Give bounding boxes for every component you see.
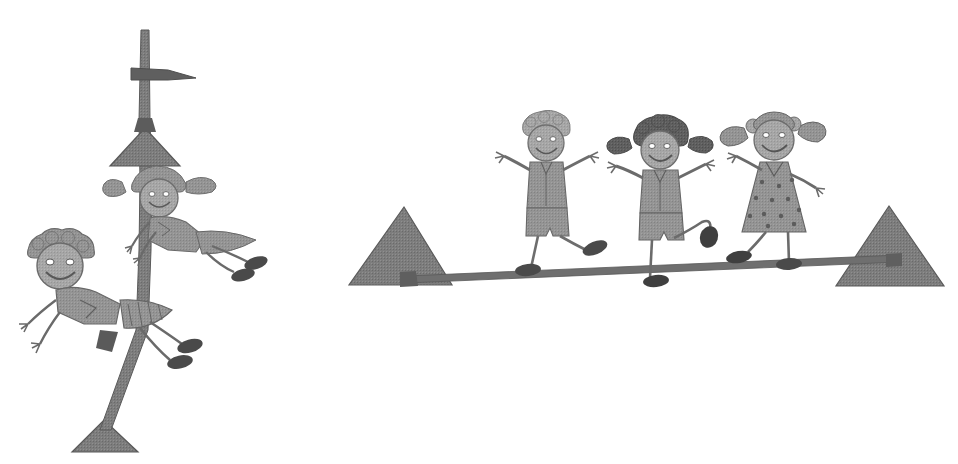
beam-child-left-eye-left xyxy=(536,137,542,142)
beam-child-middle-eye-right xyxy=(664,144,670,149)
climbing-girl-eye-left xyxy=(149,192,155,197)
beam-child-middle-head xyxy=(641,131,679,169)
climbing-boy-hair-curl-2 xyxy=(46,232,59,245)
beam-child-left-hair-curl-1 xyxy=(526,117,536,127)
climbing-girl-head xyxy=(140,179,178,217)
beam-right-end xyxy=(886,253,902,267)
beam-child-middle-shirt xyxy=(640,170,682,213)
beam-child-left-eye-right xyxy=(550,137,556,142)
beam-child-right-eye-right xyxy=(779,133,785,138)
beam-child-right-eye-left xyxy=(763,133,769,138)
beam-child-middle-hair-curl-2 xyxy=(652,115,665,128)
beam-left-end xyxy=(400,271,418,287)
clipart-drawing xyxy=(0,0,958,464)
beam-child-left-shorts xyxy=(526,208,569,236)
climbing-boy-hair-curl-3 xyxy=(62,232,75,245)
climbing-boy-eye-left xyxy=(46,259,54,265)
beam-child-right-leg-standing xyxy=(788,232,789,262)
climbing-girl-eye-right xyxy=(163,192,169,197)
climbing-girl-pigtail-right xyxy=(186,177,216,194)
beam-child-right-head xyxy=(754,120,794,160)
illustration-canvas: Black and white clipart drawing: on the … xyxy=(0,0,958,464)
beam-child-left-hair-curl-2 xyxy=(539,112,550,123)
climbing-boy-eye-right xyxy=(66,259,74,265)
beam-child-middle-hair-curl-1 xyxy=(637,122,649,134)
beam-child-left-hair-curl-3 xyxy=(553,115,563,125)
climbing-boy-head xyxy=(37,243,83,289)
beam-child-middle-hair-curl-3 xyxy=(668,120,680,132)
climbing-boy-hair-curl-1 xyxy=(32,238,44,250)
climbing-boy-hair-curl-4 xyxy=(77,240,89,252)
beam-child-left-shirt xyxy=(527,162,567,208)
climbing-girl-pigtail-left xyxy=(103,179,126,196)
beam-child-left-head xyxy=(528,125,564,161)
beam-child-middle-eye-left xyxy=(649,144,655,149)
